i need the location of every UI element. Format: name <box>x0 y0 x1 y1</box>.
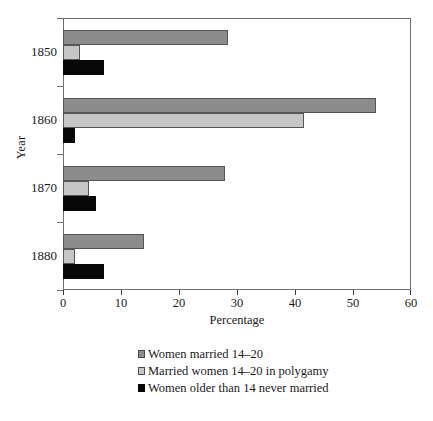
x-axis-tick-labels: 0102030405060 <box>63 296 411 314</box>
bar-group-1860 <box>63 86 411 154</box>
bar-1850-series-0 <box>63 30 228 45</box>
bar-group-1850 <box>63 18 411 86</box>
y-axis-label-1850: 1850 <box>3 45 57 58</box>
bar-1870-series-2 <box>63 196 96 211</box>
x-axis-tick <box>121 290 122 295</box>
y-axis-tick <box>57 154 63 155</box>
y-axis-title: Year <box>14 118 29 178</box>
black-swatch <box>138 384 145 392</box>
y-axis-label-1870: 1870 <box>3 181 57 194</box>
bars-plot-area <box>63 18 411 290</box>
bar-1860-series-1 <box>63 113 304 128</box>
legend-item-label: Married women 14–20 in polygamy <box>148 364 329 378</box>
y-axis-tick <box>57 222 63 223</box>
y-axis-tick <box>57 18 63 19</box>
bar-1870-series-0 <box>63 166 225 181</box>
legend-item-label: Women older than 14 never married <box>148 381 329 395</box>
bar-1860-series-0 <box>63 98 376 113</box>
x-axis-tick-label: 30 <box>217 296 257 310</box>
x-axis-tick-label: 10 <box>101 296 141 310</box>
x-axis-tick <box>237 290 238 295</box>
y-axis-tick <box>57 86 63 87</box>
light-gray-swatch <box>138 367 145 375</box>
x-axis-tick <box>353 290 354 295</box>
bar-1880-series-0 <box>63 234 144 249</box>
bar-1860-series-2 <box>63 128 75 143</box>
legend-item-label: Women married 14–20 <box>148 347 263 361</box>
x-axis-tick <box>410 290 411 295</box>
x-axis-tick <box>179 290 180 295</box>
bar-chart-figure: 1850186018701880 Year 0102030405060 Perc… <box>0 0 433 421</box>
chart-legend: Women married 14–20Married women 14–20 i… <box>138 345 398 396</box>
bar-group-1870 <box>63 154 411 222</box>
bar-1850-series-1 <box>63 45 80 60</box>
bar-1880-series-2 <box>63 264 104 279</box>
dark-gray-swatch <box>138 350 145 358</box>
x-axis-tick-label: 40 <box>275 296 315 310</box>
x-axis-tick-label: 0 <box>43 296 83 310</box>
legend-item-0: Women married 14–20 <box>138 345 398 362</box>
x-axis-tick <box>295 290 296 295</box>
y-axis-labels: 1850186018701880 <box>0 18 57 290</box>
x-axis-tick-label: 50 <box>333 296 373 310</box>
bar-1880-series-1 <box>63 249 75 264</box>
x-axis-title: Percentage <box>63 313 411 328</box>
x-axis-tick <box>63 290 64 295</box>
bar-1850-series-2 <box>63 60 104 75</box>
bar-group-1880 <box>63 222 411 290</box>
x-axis-tick-label: 20 <box>159 296 199 310</box>
x-axis-tick-label: 60 <box>391 296 431 310</box>
legend-item-1: Married women 14–20 in polygamy <box>138 362 398 379</box>
legend-item-2: Women older than 14 never married <box>138 379 398 396</box>
bar-1870-series-1 <box>63 181 89 196</box>
y-axis-label-1860: 1860 <box>3 113 57 126</box>
y-axis-label-1880: 1880 <box>3 249 57 262</box>
